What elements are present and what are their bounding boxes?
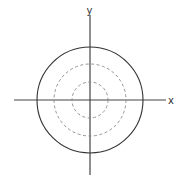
- y-axis-label: y: [87, 5, 93, 16]
- axes-diagram: y x: [0, 0, 182, 185]
- x-axis-label: x: [168, 95, 174, 106]
